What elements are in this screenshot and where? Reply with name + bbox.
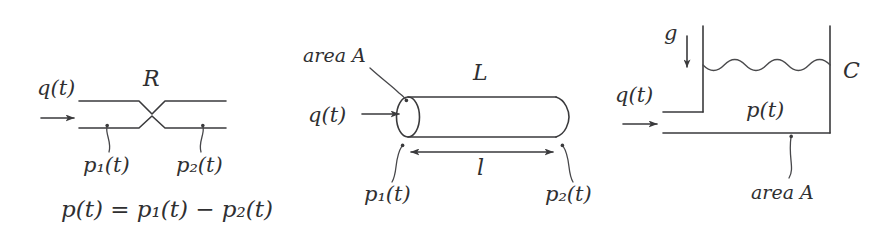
p2-text: p₂(t) (545, 182, 592, 206)
pressure-out-leader-dot (201, 124, 205, 128)
area-leader-dot (789, 135, 793, 139)
pressure-out-leader-dot (561, 144, 565, 148)
capacitance-parameter-label: C (843, 60, 860, 82)
pipe-upper-wall (79, 101, 226, 114)
resistance-parameter-label: R (143, 68, 160, 90)
pressure-out-leader (563, 146, 573, 182)
area-leader (370, 68, 406, 100)
inertance-length-label: l (477, 157, 484, 179)
p2-text: p₂(t) (176, 153, 223, 177)
resistance-equation: p(t) = p₁(t) − p₂(t) (61, 198, 273, 221)
resistance-flow-label: q(t) (37, 78, 75, 99)
capacitance-diagram-linework (623, 26, 830, 178)
area-leader-dot (405, 99, 409, 103)
p1-text: p₁(t) (83, 153, 130, 177)
pressure-in-leader (392, 146, 402, 182)
resistance-diagram-linework (41, 101, 226, 152)
pressure-out-leader (200, 126, 203, 152)
fluid-surface-wave (703, 60, 830, 71)
inertance-diagram-linework (362, 68, 573, 182)
p1-text: p₁(t) (364, 182, 411, 206)
inertance-parameter-label: L (473, 62, 488, 84)
resistance-pressure-out-label: p₂(t) (176, 155, 223, 176)
pressure-in-leader (107, 126, 110, 152)
area-leader (789, 137, 792, 178)
figure-canvas: q(t) R p₁(t) p₂(t) p(t) = p₁(t) − p₂(t) … (0, 0, 890, 244)
pressure-in-leader-dot (401, 144, 405, 148)
cylinder-left-opening (397, 97, 420, 137)
pressure-in-leader-dot (105, 124, 109, 128)
capacitance-gravity-label: g (664, 23, 677, 44)
inertance-area-label: area A (303, 46, 366, 65)
resistance-pressure-in-label: p₁(t) (83, 155, 130, 176)
inertance-flow-label: q(t) (308, 105, 346, 126)
capacitance-pressure-label: p(t) (746, 100, 784, 121)
capacitance-area-label: area A (751, 183, 814, 202)
inertance-pressure-in-label: p₁(t) (364, 184, 411, 205)
capacitance-flow-label: q(t) (615, 85, 653, 106)
cylinder-right-cap (556, 97, 569, 137)
inertance-pressure-out-label: p₂(t) (545, 184, 592, 205)
